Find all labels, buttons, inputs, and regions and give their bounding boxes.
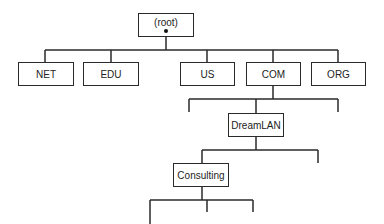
node-com: COM (246, 62, 301, 86)
node-org: ORG (311, 62, 366, 86)
node-consulting-label: Consulting (177, 170, 224, 181)
node-us: US (180, 62, 235, 86)
node-net: NET (18, 62, 74, 86)
node-consulting: Consulting (173, 163, 229, 187)
node-edu: EDU (83, 62, 139, 86)
node-net-label: NET (36, 69, 56, 80)
node-edu-label: EDU (100, 69, 121, 80)
node-org-label: ORG (327, 69, 350, 80)
root-dot-icon (164, 29, 168, 33)
node-dreamlan: DreamLAN (228, 113, 284, 137)
node-dreamlan-label: DreamLAN (231, 120, 280, 131)
node-root: (root) (138, 13, 194, 37)
node-com-label: COM (262, 69, 285, 80)
node-us-label: US (201, 69, 215, 80)
node-root-label: (root) (139, 17, 193, 28)
